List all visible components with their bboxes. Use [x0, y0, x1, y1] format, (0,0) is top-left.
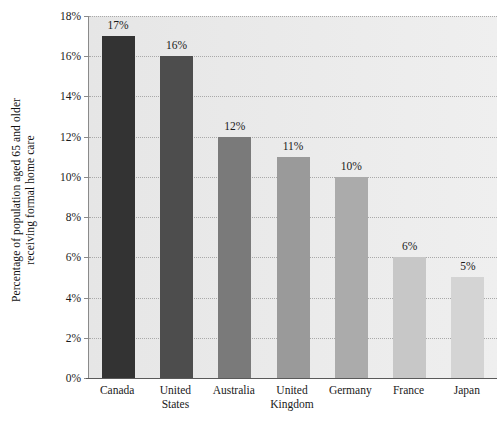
- y-axis-tick-label: 18%: [60, 10, 81, 22]
- x-axis-tick-label: Japan: [454, 383, 480, 397]
- bar: [160, 56, 193, 378]
- bar-value-label: 11%: [283, 140, 304, 152]
- y-axis-tick-labels: 0%2%4%6%8%10%12%14%16%18%: [46, 0, 86, 428]
- y-axis-tick-label: 6%: [66, 251, 81, 263]
- bars-layer: 17%16%12%11%10%6%5%: [89, 16, 497, 378]
- bar-value-label: 17%: [108, 19, 129, 31]
- bar-value-label: 10%: [341, 160, 362, 172]
- y-axis-title: Percentage of population aged 65 and old…: [0, 0, 46, 400]
- y-axis-tick-label: 12%: [60, 131, 81, 143]
- x-axis-tick-label: Canada: [100, 383, 134, 397]
- bar: [335, 177, 368, 378]
- x-axis-tick-label: France: [393, 383, 424, 397]
- bar: [102, 36, 135, 378]
- bar-value-label: 6%: [402, 240, 417, 252]
- y-axis-tick-label: 2%: [66, 332, 81, 344]
- y-axis-tick-label: 14%: [60, 90, 81, 102]
- y-axis-tick-label: 0%: [66, 372, 81, 384]
- y-axis-tick-label: 4%: [66, 292, 81, 304]
- y-axis-title-line-2: receiving formal home care: [23, 98, 37, 302]
- bar-value-label: 12%: [224, 120, 245, 132]
- bar: [277, 157, 310, 378]
- y-axis-tick-label: 8%: [66, 211, 81, 223]
- bar-value-label: 16%: [166, 39, 187, 51]
- bar: [218, 137, 251, 378]
- y-axis-title-line-1: Percentage of population aged 65 and old…: [9, 98, 23, 302]
- x-axis-line: [86, 378, 497, 379]
- x-axis-tick-label: Australia: [213, 383, 255, 397]
- x-axis-tick-labels: CanadaUnitedStatesAustraliaUnitedKingdom…: [88, 383, 496, 427]
- x-axis-tick-label: UnitedStates: [160, 383, 191, 411]
- y-axis-tick-label: 10%: [60, 171, 81, 183]
- bar: [451, 277, 484, 378]
- plot-area: 17%16%12%11%10%6%5%: [88, 16, 497, 378]
- bar-chart: Percentage of population aged 65 and old…: [0, 0, 504, 428]
- bar-value-label: 5%: [460, 260, 475, 272]
- x-axis-tick-label: UnitedKingdom: [270, 383, 313, 411]
- x-axis-tick-label: Germany: [329, 383, 372, 397]
- y-axis-tick-label: 16%: [60, 50, 81, 62]
- bar: [393, 257, 426, 378]
